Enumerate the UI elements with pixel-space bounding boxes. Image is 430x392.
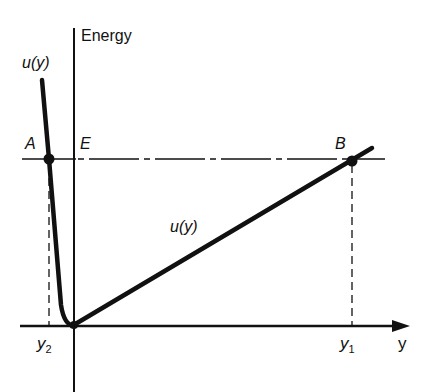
right-potential-line [72, 148, 372, 326]
right-curve-label: u(y) [170, 218, 198, 236]
origin-marker [70, 321, 78, 329]
y2-base: y [37, 334, 46, 353]
y1-base: y [340, 334, 349, 353]
left-curve-label: u(y) [22, 54, 50, 72]
y1-tick-label: y1 [340, 334, 355, 354]
point-b-label: B [335, 135, 346, 153]
point-b-marker [347, 156, 358, 167]
x-axis-label: y [398, 334, 407, 354]
y1-subscript: 1 [349, 343, 355, 355]
point-a-label: A [25, 135, 36, 153]
energy-axis-label: Energy [81, 27, 132, 45]
energy-diagram [0, 0, 430, 392]
point-e-label: E [80, 135, 91, 153]
y2-subscript: 2 [46, 343, 52, 355]
y-axis-arrow-icon [392, 320, 410, 332]
point-a-marker [44, 154, 55, 165]
y2-tick-label: y2 [37, 334, 52, 354]
left-potential-curve [42, 80, 74, 326]
